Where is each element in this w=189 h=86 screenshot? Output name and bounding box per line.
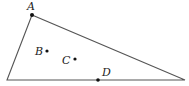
- label-b: B: [34, 45, 43, 58]
- point-d: [96, 78, 100, 82]
- label-d: D: [101, 66, 111, 79]
- label-a: A: [26, 0, 35, 13]
- point-b: [45, 49, 48, 52]
- triangle-diagram: A B C D: [0, 0, 189, 86]
- triangle: [7, 15, 185, 80]
- point-c: [73, 57, 76, 60]
- label-c: C: [62, 54, 71, 67]
- point-a: [30, 13, 34, 17]
